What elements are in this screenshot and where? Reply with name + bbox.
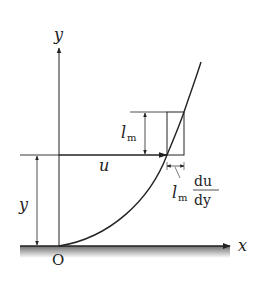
velocity-label: u <box>99 156 109 175</box>
fluctuation-leader <box>175 167 180 178</box>
x-axis-label: x <box>238 236 247 255</box>
height-label: y <box>18 195 29 214</box>
velocity-profile-curve <box>59 62 201 246</box>
svg-text:du: du <box>194 173 212 189</box>
y-axis-label: y <box>53 25 64 44</box>
svg-text:l: l <box>121 123 126 142</box>
svg-text:m: m <box>178 192 188 203</box>
svg-text:l: l <box>172 183 177 202</box>
fluctuation-label: l m du dy <box>172 173 219 208</box>
mixing-length-label: l m <box>121 123 137 143</box>
svg-text:m: m <box>127 132 137 143</box>
origin-label: O <box>52 251 64 269</box>
svg-text:dy: dy <box>194 192 211 208</box>
mixing-length-diagram: y x O u y l m l m du dy <box>0 0 267 291</box>
